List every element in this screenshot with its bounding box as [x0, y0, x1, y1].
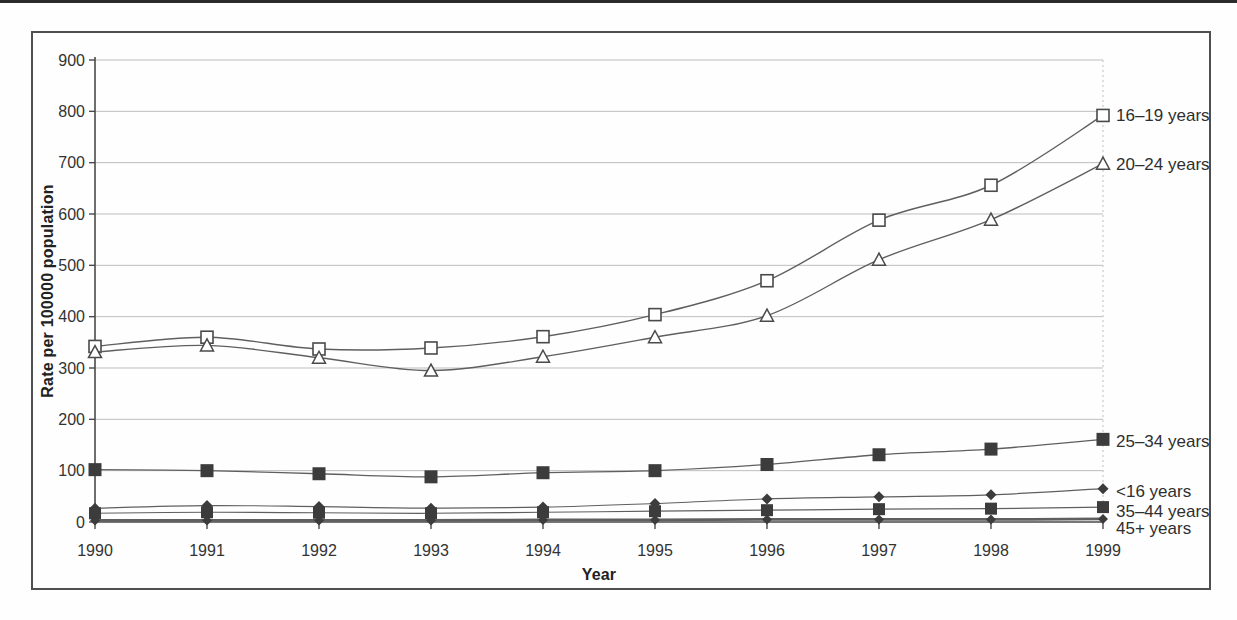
series-marker-0: [1097, 109, 1109, 121]
series-marker-0: [425, 342, 437, 354]
y-tick-label: 600: [58, 206, 85, 223]
x-tick-label: 1995: [637, 542, 673, 559]
series-marker-3: [986, 489, 997, 500]
series-marker-2: [537, 466, 550, 479]
series-marker-5: [986, 514, 996, 524]
series-marker-1: [761, 309, 774, 321]
series-line-0: [95, 115, 1103, 350]
series-marker-2: [761, 458, 774, 471]
x-tick-label: 1992: [301, 542, 337, 559]
series-marker-0: [985, 179, 997, 191]
series-marker-0: [649, 309, 661, 321]
series-marker-3: [1098, 483, 1109, 494]
series-label-0: 16–19 years: [1116, 106, 1210, 125]
series-marker-4: [1097, 501, 1109, 513]
x-tick-label: 1990: [77, 542, 113, 559]
series-marker-5: [874, 514, 884, 524]
series-marker-4: [985, 503, 997, 515]
series-marker-2: [313, 467, 326, 480]
series-marker-4: [873, 503, 885, 515]
x-tick-label: 1998: [973, 542, 1009, 559]
series-label-1: 20–24 years: [1116, 155, 1210, 174]
y-tick-label: 400: [58, 308, 85, 325]
scanned-figure-page: 0100200300400500600700800900199019911992…: [0, 0, 1237, 620]
series-marker-2: [873, 448, 886, 461]
series-marker-1: [1097, 157, 1110, 169]
x-tick-label: 1991: [189, 542, 225, 559]
series-label-3: <16 years: [1116, 482, 1191, 501]
x-tick-label: 1999: [1085, 542, 1121, 559]
x-tick-label: 1996: [749, 542, 785, 559]
series-marker-2: [985, 443, 998, 456]
y-tick-label: 300: [58, 360, 85, 377]
y-tick-label: 700: [58, 154, 85, 171]
series-label-2: 25–34 years: [1116, 432, 1210, 451]
x-tick-label: 1994: [525, 542, 561, 559]
series-line-3: [95, 489, 1103, 509]
y-axis-title: Rate per 100000 population: [39, 184, 57, 397]
series-marker-3: [762, 493, 773, 504]
series-marker-1: [985, 213, 998, 225]
series-marker-2: [201, 464, 214, 477]
series-marker-2: [649, 464, 662, 477]
series-line-5: [95, 519, 1103, 521]
series-line-4: [95, 507, 1103, 513]
y-tick-label: 800: [58, 103, 85, 120]
series-marker-0: [537, 331, 549, 343]
series-marker-0: [873, 214, 885, 226]
y-tick-label: 200: [58, 411, 85, 428]
y-tick-label: 0: [76, 514, 85, 531]
series-marker-2: [1097, 433, 1110, 446]
y-tick-label: 500: [58, 257, 85, 274]
x-tick-label: 1997: [861, 542, 897, 559]
line-chart: 0100200300400500600700800900199019911992…: [0, 0, 1237, 620]
series-label-5: 45+ years: [1116, 519, 1191, 538]
series-marker-4: [761, 504, 773, 516]
series-marker-0: [761, 275, 773, 287]
series-marker-3: [874, 491, 885, 502]
series-line-1: [95, 164, 1103, 371]
series-marker-1: [873, 253, 886, 265]
x-tick-label: 1993: [413, 542, 449, 559]
series-line-2: [95, 439, 1103, 476]
y-tick-label: 900: [58, 52, 85, 69]
series-marker-2: [89, 463, 102, 476]
y-tick-label: 100: [58, 462, 85, 479]
x-axis-title: Year: [95, 566, 1103, 584]
series-marker-2: [425, 470, 438, 483]
